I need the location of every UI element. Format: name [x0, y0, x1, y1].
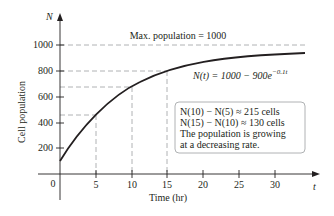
- x-tick-label: 0: [51, 178, 56, 189]
- box-line-4: at a decreasing rate.: [180, 139, 259, 150]
- y-axis-label: Cell population: [16, 81, 27, 143]
- x-tick-label: 20: [198, 179, 208, 190]
- chart: N t 1000 800 600 400 200 0 5 10 15 20 25…: [0, 0, 334, 216]
- formula-label: N(t) = 1000 − 900e−0.1t: [192, 68, 289, 82]
- x-tick-label: 5: [94, 179, 99, 190]
- y-tick-label: 200: [38, 142, 53, 153]
- formula-exponent: −0.1t: [272, 68, 288, 76]
- formula-text: N(t) = 1000 − 900e: [192, 70, 273, 82]
- y-axis-arrow-icon: [57, 13, 63, 21]
- y-tick-label: 400: [38, 117, 53, 128]
- x-axis-label: Time (hr): [149, 192, 187, 204]
- box-line-3: The population is growing: [180, 128, 286, 139]
- x-tick-label: 10: [127, 179, 137, 190]
- max-population-label: Max. population = 1000: [130, 30, 227, 41]
- x-tick-label: 15: [162, 179, 172, 190]
- x-tick-label: 30: [270, 179, 280, 190]
- y-tick-label: 800: [38, 65, 53, 76]
- y-tick-label: 1000: [33, 39, 53, 50]
- x-axis-symbol: t: [313, 181, 316, 192]
- y-tick-label: 600: [38, 91, 53, 102]
- x-tick-label: 25: [234, 179, 244, 190]
- x-axis-arrow-icon: [312, 171, 320, 177]
- y-axis-symbol: N: [45, 11, 54, 22]
